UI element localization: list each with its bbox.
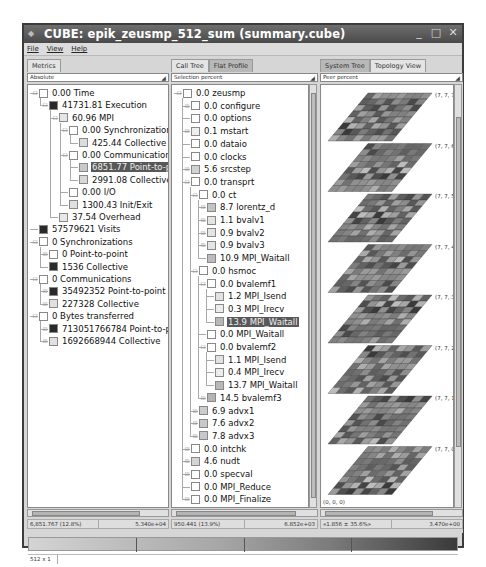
calltree-tree-row[interactable]: 0.0 MPI_Waitall: [200, 328, 285, 340]
metrics-tree-row[interactable]: ⊟0.00 Synchronization: [62, 124, 169, 136]
topology-plane[interactable]: [328, 346, 432, 394]
calltree-tree-row[interactable]: ⊞8.7 lorentz_d: [200, 201, 276, 213]
metrics-tree-row[interactable]: ⊟41731.81 Execution: [42, 99, 148, 111]
calltree-hscrollbar[interactable]: [171, 509, 318, 517]
tree-item-label[interactable]: 5.6 srcstep: [203, 164, 252, 174]
calltree-tree-row[interactable]: ⊟0.0 zeusmp: [176, 87, 246, 99]
tree-item-label[interactable]: 0.0 dataio: [203, 139, 248, 149]
tree-item-label[interactable]: 7.6 advx2: [211, 418, 255, 428]
tree-item-label[interactable]: 0.0 configure: [203, 101, 261, 111]
metrics-tree-row[interactable]: 57579621 Visits: [32, 223, 122, 235]
collapse-icon[interactable]: ⊟: [32, 90, 38, 96]
expand-icon[interactable]: ⊞: [42, 338, 48, 344]
expand-icon[interactable]: ⊞: [42, 251, 48, 257]
calltree-tree-row[interactable]: 0.0 options: [184, 112, 253, 124]
topology-vscrollbar[interactable]: [454, 84, 462, 508]
calltree-tree-row[interactable]: ⊞0.9 bvalv2: [200, 227, 266, 239]
expand-icon[interactable]: ⊞: [200, 217, 206, 223]
tree-item-label[interactable]: 0.0 hsmoc: [211, 266, 257, 276]
tree-item-label[interactable]: 425.44 Collective: [91, 138, 167, 148]
calltree-tree-row[interactable]: ⊞0.0 specval: [184, 468, 254, 480]
system-mode-select[interactable]: Peer percent ◢: [320, 73, 463, 82]
calltree-tree-row[interactable]: ⊞1.1 bvalv1: [200, 214, 266, 226]
metrics-tree-row[interactable]: ⊟0 Communications: [32, 273, 133, 285]
calltree-tree-row[interactable]: ⊟0.0 bvalemf2: [200, 341, 277, 353]
scroll-thumb[interactable]: [176, 511, 296, 516]
calltree-tree-row[interactable]: 10.9 MPI_Waitall: [200, 252, 291, 264]
tree-item-label[interactable]: 7.8 advx3: [211, 431, 255, 441]
close-icon[interactable]: ✕: [446, 26, 460, 40]
tree-item-label[interactable]: 35492352 Point-to-point: [61, 286, 167, 296]
tree-item-label[interactable]: 0.0 clocks: [203, 152, 247, 162]
tree-item-label[interactable]: 0.3 MPI_Irecv: [227, 304, 285, 314]
topology-plane[interactable]: [328, 93, 432, 141]
tree-item-label[interactable]: 2991.08 Collective: [91, 175, 169, 185]
collapse-icon[interactable]: ⊟: [32, 239, 38, 245]
metrics-tree-row[interactable]: ⊟0.00 Time: [32, 87, 95, 99]
tree-item-label[interactable]: 0.0 MPI_Finalize: [203, 494, 272, 504]
calltree-tree-row[interactable]: ⊟0.0 transprt: [184, 176, 255, 188]
calltree-tree-row[interactable]: 0.3 MPI_Irecv: [208, 303, 285, 315]
tab-flat-profile[interactable]: Flat Profile: [209, 59, 253, 72]
calltree-tree-row[interactable]: ⊞0.1 mstart: [184, 125, 249, 137]
expand-icon[interactable]: ⊞: [184, 446, 190, 452]
collapse-icon[interactable]: ⊟: [32, 276, 38, 282]
tree-item-label[interactable]: 10.9 MPI_Waitall: [219, 253, 291, 263]
maximize-icon[interactable]: □: [429, 26, 443, 40]
tree-item-label[interactable]: 37.54 Overhead: [71, 212, 142, 222]
scroll-thumb[interactable]: [325, 511, 433, 516]
collapse-icon[interactable]: ⊟: [192, 192, 198, 198]
expand-icon[interactable]: ⊞: [184, 103, 190, 109]
tree-item-label[interactable]: 0.0 transprt: [203, 177, 255, 187]
calltree-tree-row[interactable]: ⊞6.9 advx1: [192, 405, 255, 417]
collapse-icon[interactable]: ⊟: [62, 152, 68, 158]
collapse-icon[interactable]: ⊟: [32, 313, 38, 319]
tree-item-label[interactable]: 1692668944 Collective: [61, 336, 162, 346]
dropdown-icon[interactable]: ◢: [160, 74, 167, 81]
collapse-icon[interactable]: ⊟: [42, 102, 48, 108]
tree-item-label[interactable]: 41731.81 Execution: [61, 100, 148, 110]
calltree-tree-row[interactable]: 13.9 MPI_Waitall: [208, 316, 299, 328]
tree-item-label[interactable]: 0.4 MPI_Irecv: [227, 367, 285, 377]
tree-item-label[interactable]: 0.0 MPI_Waitall: [219, 329, 285, 339]
scroll-thumb[interactable]: [311, 93, 316, 498]
collapse-icon[interactable]: ⊟: [200, 281, 206, 287]
menu-file[interactable]: File: [27, 45, 39, 53]
expand-icon[interactable]: ⊞: [42, 301, 48, 307]
topology-view[interactable]: (7, 7, 7)(7, 7, 6)(7, 7, 5)(7, 7, 4)(7, …: [320, 84, 454, 508]
tree-item-label[interactable]: 0.0 options: [203, 113, 253, 123]
tree-item-label[interactable]: 0.0 bvalemf2: [219, 342, 277, 352]
calltree-tree-row[interactable]: ⊞0.0 MPI_Finalize: [184, 493, 272, 505]
tree-item-label[interactable]: 14.5 bvalemf3: [219, 393, 283, 403]
tree-item-label[interactable]: 0.0 specval: [203, 469, 254, 479]
metrics-tree-row[interactable]: ⊞713051766784 Point-to-p: [42, 323, 169, 335]
minimize-icon[interactable]: _: [412, 26, 426, 40]
tree-item-label[interactable]: 0.0 MPI_Reduce: [203, 482, 272, 492]
title-bar[interactable]: ◆ CUBE: epik_zeusmp_512_sum (summary.cub…: [24, 25, 462, 43]
tree-item-label[interactable]: 1.2 MPI_Isend: [227, 291, 287, 301]
scroll-thumb[interactable]: [456, 117, 461, 447]
expand-icon[interactable]: ⊞: [200, 242, 206, 248]
tab-topology-view[interactable]: Topology View: [370, 59, 426, 72]
calltree-tree-row[interactable]: ⊞14.5 bvalemf3: [200, 392, 283, 404]
topology-plane[interactable]: [328, 194, 432, 242]
calltree-tree-row[interactable]: 0.4 MPI_Irecv: [208, 366, 285, 378]
tree-item-label[interactable]: 713051766784 Point-to-p: [61, 324, 169, 334]
calltree-tree-row[interactable]: 0.0 clocks: [184, 151, 247, 163]
collapse-icon[interactable]: ⊟: [184, 179, 190, 185]
calltree-tree-row[interactable]: ⊟0.0 hsmoc: [192, 265, 257, 277]
tab-system-tree[interactable]: System Tree: [320, 59, 370, 72]
menu-help[interactable]: Help: [71, 45, 87, 53]
calltree-tree-row[interactable]: 0.0 MPI_Reduce: [184, 481, 272, 493]
tree-item-label[interactable]: 0.00 Time: [51, 88, 95, 98]
expand-icon[interactable]: ⊞: [184, 128, 190, 134]
tab-call-tree[interactable]: Call Tree: [171, 59, 209, 72]
tree-item-label[interactable]: 0.0 ct: [211, 190, 237, 200]
tree-item-label[interactable]: 0.0 intchk: [203, 444, 247, 454]
metrics-tree-row[interactable]: 0.00 I/O: [62, 186, 117, 198]
calltree-tree-row[interactable]: ⊟0.0 bvalemf1: [200, 278, 277, 290]
metrics-tree-row[interactable]: ⊞0 Point-to-point: [42, 248, 129, 260]
calltree-tree-row[interactable]: 13.7 MPI_Waitall: [208, 379, 299, 391]
expand-icon[interactable]: ⊞: [42, 326, 48, 332]
calltree-tree-row[interactable]: ⊞4.6 nudt: [184, 455, 241, 467]
